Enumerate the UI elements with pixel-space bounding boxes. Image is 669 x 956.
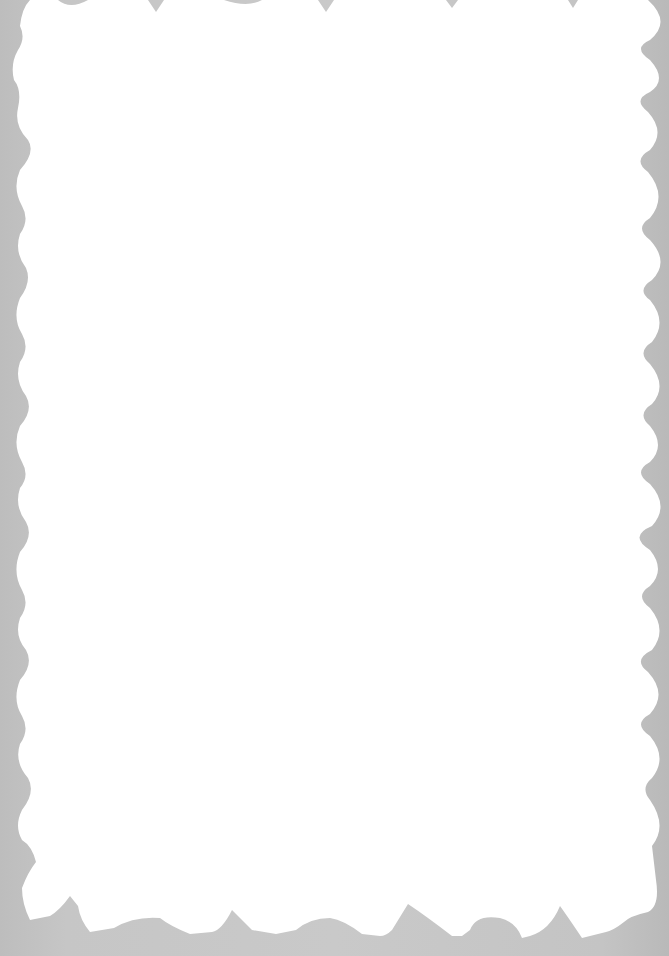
scalloped-frame-shape xyxy=(13,0,661,938)
scalloped-frame xyxy=(0,0,669,956)
gray-backdrop xyxy=(0,0,669,956)
